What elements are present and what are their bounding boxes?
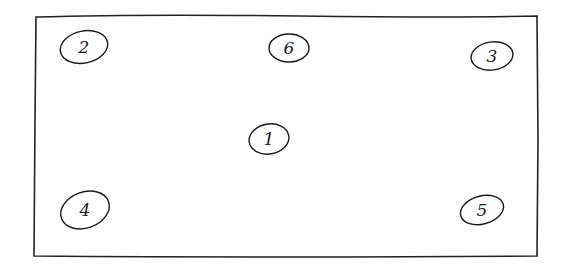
node-label: 3: [487, 46, 498, 66]
node-2: 2: [57, 26, 111, 67]
node-label: 1: [264, 129, 275, 149]
node-label: 2: [78, 37, 90, 57]
node-3: 3: [469, 39, 514, 73]
node-label: 5: [477, 200, 488, 220]
node-label: 6: [284, 38, 295, 58]
node-6: 6: [269, 34, 309, 62]
node-label: 4: [79, 200, 91, 220]
node-4: 4: [55, 185, 114, 236]
node-1: 1: [247, 121, 292, 157]
layout-diagram: 263145: [0, 0, 562, 271]
node-5: 5: [457, 191, 507, 229]
nodes-group: 263145: [55, 26, 514, 235]
